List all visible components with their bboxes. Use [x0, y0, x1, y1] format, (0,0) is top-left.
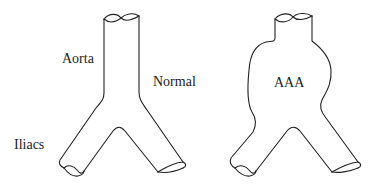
- label-normal: Normal: [153, 74, 196, 90]
- vessel-drawings: [0, 0, 370, 186]
- aorta-diagram: Aorta Normal Iliacs AAA: [0, 0, 370, 186]
- label-iliacs: Iliacs: [14, 137, 44, 153]
- label-aorta: Aorta: [62, 51, 94, 67]
- normal-aorta-shape: [59, 14, 185, 176]
- label-aaa: AAA: [274, 75, 304, 91]
- aaa-shape: [230, 13, 360, 176]
